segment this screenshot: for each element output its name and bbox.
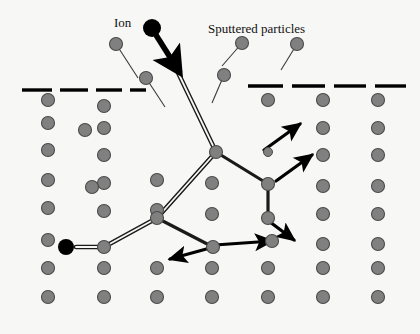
ion-track-outer bbox=[76, 60, 216, 247]
node-to-right-node bbox=[216, 152, 268, 184]
lattice-atom bbox=[210, 146, 223, 159]
lattice-atom bbox=[151, 212, 164, 225]
lattice-atom bbox=[317, 262, 330, 275]
lattice-atom bbox=[42, 94, 55, 107]
lattice-atom bbox=[266, 235, 279, 248]
implanted-ion-dot bbox=[58, 239, 74, 255]
lattice-atom bbox=[262, 262, 275, 275]
diagram-canvas: Ion Sputtered particles bbox=[0, 0, 420, 334]
lattice-atom bbox=[317, 94, 330, 107]
small-lattice-atom bbox=[264, 148, 273, 157]
sputtered-particles bbox=[110, 37, 304, 85]
lattice-atom bbox=[98, 241, 111, 254]
lattice-atom bbox=[372, 238, 385, 251]
lattice-atom bbox=[86, 181, 99, 194]
ion-trajectory-track bbox=[76, 60, 216, 247]
lattice-atom bbox=[42, 262, 55, 275]
sputtered-particle bbox=[140, 72, 153, 85]
lattice-atom bbox=[317, 180, 330, 193]
lattice-atom bbox=[262, 94, 275, 107]
lattice-atom bbox=[42, 234, 55, 247]
lattice-atom bbox=[372, 122, 385, 135]
lattice-atom bbox=[262, 212, 275, 225]
lattice-atom bbox=[372, 291, 385, 304]
lattice-atom bbox=[151, 174, 164, 187]
lattice-atom bbox=[207, 241, 220, 254]
lattice-atom bbox=[372, 208, 385, 221]
lattice-atom bbox=[98, 291, 111, 304]
lattice-atom bbox=[372, 94, 385, 107]
lattice-atom bbox=[42, 202, 55, 215]
lattice-atom bbox=[98, 177, 111, 190]
lattice-atom bbox=[317, 122, 330, 135]
ion-label: Ion bbox=[114, 15, 132, 30]
sputtered-particle bbox=[218, 69, 231, 82]
lattice-atom bbox=[262, 291, 275, 304]
lattice-atom bbox=[206, 208, 219, 221]
lattice-atom bbox=[42, 174, 55, 187]
incident-ion-dot bbox=[143, 19, 161, 37]
sputtered-particle bbox=[110, 38, 123, 51]
lattice-atom bbox=[98, 262, 111, 275]
lattice-atom bbox=[206, 291, 219, 304]
lattice-atom bbox=[98, 205, 111, 218]
lattice-atom bbox=[206, 262, 219, 275]
lattice-atom bbox=[98, 149, 111, 162]
lower-left-to-v-node bbox=[157, 218, 213, 247]
lattice-atom bbox=[317, 291, 330, 304]
sputtered-particles-label: Sputtered particles bbox=[208, 21, 305, 36]
small-atom-escape-arrow bbox=[264, 124, 300, 150]
implanted-ion bbox=[58, 239, 74, 255]
lattice-atom bbox=[151, 291, 164, 304]
incident-ion-arrow bbox=[156, 35, 180, 73]
lattice-atom bbox=[151, 262, 164, 275]
sputtered-particle bbox=[291, 38, 304, 51]
lattice-atom bbox=[372, 149, 385, 162]
lattice-atom bbox=[206, 177, 219, 190]
lattice-atom bbox=[98, 122, 111, 135]
incident-ion bbox=[143, 19, 180, 73]
sputtering-diagram: Ion Sputtered particles bbox=[0, 0, 420, 334]
lattice-atoms bbox=[42, 94, 385, 304]
recoil-arrows bbox=[170, 124, 312, 259]
lattice-atom bbox=[79, 124, 92, 137]
lattice-atom bbox=[98, 100, 111, 113]
recoil-arrow-right bbox=[215, 241, 272, 245]
right-node-escape-arrow bbox=[276, 155, 312, 181]
lattice-atom bbox=[372, 262, 385, 275]
sputtered-particle bbox=[236, 37, 249, 50]
lattice-atom bbox=[372, 180, 385, 193]
recoil-arrow-left bbox=[170, 248, 210, 259]
surface-dashed-line bbox=[22, 86, 406, 90]
lattice-atom bbox=[262, 178, 275, 191]
lattice-atom bbox=[42, 291, 55, 304]
lattice-atom bbox=[317, 238, 330, 251]
lattice-atom bbox=[317, 149, 330, 162]
lattice-atom bbox=[42, 117, 55, 130]
lattice-atom bbox=[42, 144, 55, 157]
small-lattice-atoms bbox=[264, 148, 273, 157]
ion-track-inner bbox=[76, 60, 216, 247]
lattice-atom bbox=[317, 208, 330, 221]
